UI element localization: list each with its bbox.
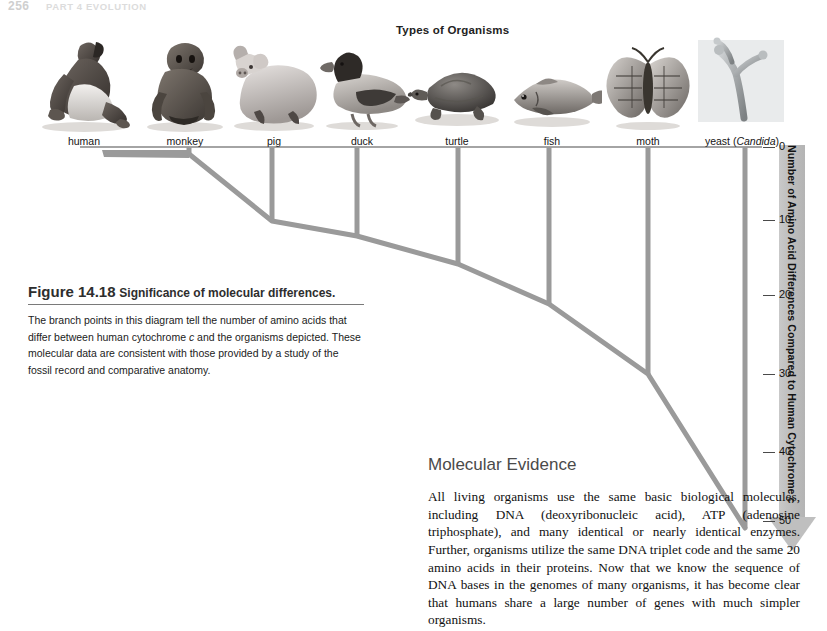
axis-tick-20	[763, 295, 775, 296]
molecular-evidence-section: Molecular Evidence All living organisms …	[428, 455, 800, 631]
axis-tick-30	[763, 374, 775, 375]
running-head-title: PART 4 EVOLUTION	[46, 1, 147, 12]
axis-tick-0	[763, 147, 775, 148]
figure-number: Figure 14.18	[28, 283, 116, 300]
figure-caption-title: Figure 14.18 Significance of molecular d…	[28, 283, 364, 300]
figure-caption: Figure 14.18 Significance of molecular d…	[28, 283, 364, 378]
axis-tick-10	[763, 220, 775, 221]
molecular-evidence-heading: Molecular Evidence	[428, 455, 800, 475]
molecular-evidence-body: All living organisms use the same basic …	[428, 488, 800, 629]
axis-tick-label-10: 10	[779, 213, 791, 225]
axis-tick-label-30: 30	[779, 367, 791, 379]
branch-human	[102, 150, 189, 158]
figure-title: Significance of molecular differences.	[119, 286, 335, 300]
figure-caption-rule	[28, 304, 364, 305]
axis-tick-40	[763, 452, 775, 453]
axis-tick-label-0: 0	[779, 140, 785, 152]
figure-caption-body: The branch points in this diagram tell t…	[28, 312, 364, 378]
axis-tick-label-20: 20	[779, 288, 791, 300]
